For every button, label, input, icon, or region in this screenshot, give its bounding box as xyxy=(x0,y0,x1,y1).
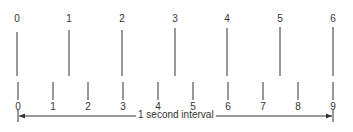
top-tick-label: 3 xyxy=(172,14,178,24)
interval-caption: 1 second interval xyxy=(136,110,216,120)
bottom-tick-label: 8 xyxy=(295,102,301,112)
bottom-tick-label: 1 xyxy=(50,102,56,112)
arrow-right-icon xyxy=(326,114,332,119)
top-tick-label: 1 xyxy=(66,14,72,24)
top-tick-label: 2 xyxy=(119,14,125,24)
bottom-tick-label: 9 xyxy=(330,102,336,112)
top-tick-label: 4 xyxy=(224,14,230,24)
bottom-tick-label: 2 xyxy=(85,102,91,112)
bottom-tick-label: 7 xyxy=(260,102,266,112)
timing-diagram: 01234560123456789 1 second interval xyxy=(0,0,353,132)
top-tick-label: 6 xyxy=(330,14,336,24)
top-tick-label: 0 xyxy=(14,14,20,24)
bottom-tick-label: 6 xyxy=(225,102,231,112)
bottom-tick-label: 0 xyxy=(15,102,21,112)
top-tick-label: 5 xyxy=(277,14,283,24)
bottom-tick-label: 3 xyxy=(120,102,126,112)
arrow-left-icon xyxy=(19,114,25,119)
